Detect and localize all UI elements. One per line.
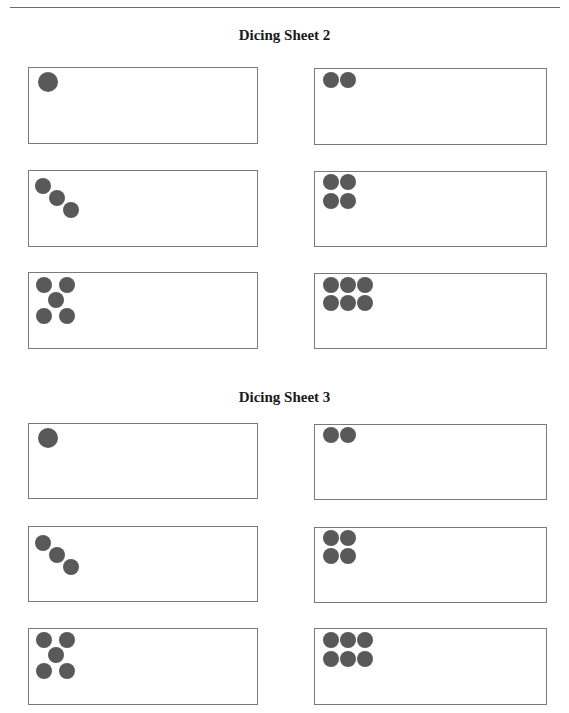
die-face-box-1 [28, 67, 258, 144]
pip-dot-icon [323, 193, 339, 209]
pip-dot-icon [340, 295, 356, 311]
pip-dot-icon [36, 308, 52, 324]
pip-dot-icon [323, 632, 339, 648]
pip-dot-icon [340, 651, 356, 667]
pip-dot-icon [49, 547, 65, 563]
pip-dot-icon [340, 174, 356, 190]
pip-dot-icon [48, 647, 64, 663]
pip-dot-icon [340, 530, 356, 546]
pip-dot-icon [36, 277, 52, 293]
pip-dot-icon [38, 72, 58, 92]
pip-dot-icon [323, 427, 339, 443]
pip-dot-icon [38, 428, 58, 448]
pip-dot-icon [340, 427, 356, 443]
pip-dot-icon [323, 548, 339, 564]
pip-dot-icon [323, 295, 339, 311]
pip-dot-icon [357, 277, 373, 293]
pip-dot-icon [59, 663, 75, 679]
pip-dot-icon [63, 202, 79, 218]
pip-dot-icon [49, 190, 65, 206]
pip-dot-icon [323, 277, 339, 293]
die-face-box-1 [28, 423, 258, 499]
sheet-3-title: Dicing Sheet 3 [0, 389, 569, 406]
pip-dot-icon [340, 632, 356, 648]
pip-dot-icon [323, 174, 339, 190]
pip-dot-icon [36, 663, 52, 679]
pip-dot-icon [340, 193, 356, 209]
header-rule [10, 7, 560, 8]
pip-dot-icon [357, 651, 373, 667]
pip-dot-icon [323, 651, 339, 667]
pip-dot-icon [59, 632, 75, 648]
pip-dot-icon [63, 559, 79, 575]
pip-dot-icon [323, 530, 339, 546]
pip-dot-icon [340, 548, 356, 564]
pip-dot-icon [340, 277, 356, 293]
sheet-2-title: Dicing Sheet 2 [0, 27, 569, 44]
pip-dot-icon [36, 632, 52, 648]
pip-dot-icon [323, 72, 339, 88]
pip-dot-icon [48, 292, 64, 308]
pip-dot-icon [35, 178, 51, 194]
pip-dot-icon [340, 72, 356, 88]
pip-dot-icon [35, 535, 51, 551]
pip-dot-icon [59, 277, 75, 293]
pip-dot-icon [357, 632, 373, 648]
pip-dot-icon [357, 295, 373, 311]
pip-dot-icon [59, 308, 75, 324]
